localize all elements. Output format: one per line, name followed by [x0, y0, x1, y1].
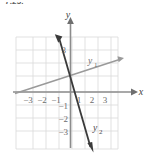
svg-text:1: 1: [94, 61, 98, 69]
x-tick--3: −3: [23, 95, 33, 105]
y-tick-3: 3: [62, 45, 67, 55]
figure-container: 7.25.: [0, 0, 152, 159]
y-axis-label: y: [65, 9, 71, 20]
y-tick--3: −3: [58, 127, 68, 137]
svg-text:2: 2: [99, 128, 103, 136]
y-tick--1: −1: [58, 101, 68, 111]
curve-label-y2: y 2: [92, 123, 103, 136]
x-axis-label: x: [138, 86, 144, 97]
svg-text:y: y: [87, 56, 93, 66]
x-tick-1: 1: [77, 95, 82, 105]
curve-label-y1: y 1: [87, 56, 98, 69]
svg-text:y: y: [92, 123, 98, 133]
x-tick--2: −2: [37, 95, 47, 105]
coordinate-graph: −3 −2 −1 1 2 3 3 −1 −2 −3 x y y 1 y 2: [0, 0, 152, 159]
y-tick--2: −2: [58, 114, 68, 124]
x-tick-2: 2: [90, 95, 95, 105]
x-tick-3: 3: [103, 95, 108, 105]
